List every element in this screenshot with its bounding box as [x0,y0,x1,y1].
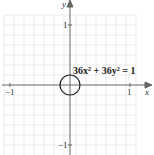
x-tick-neg1: −1 [5,88,15,97]
x-axis-label: x [145,88,149,97]
y-tick-1: 1 [63,21,68,30]
x-tick-1: 1 [127,88,132,97]
plot-area [0,0,154,155]
y-tick-neg1: −1 [58,141,68,150]
equation-annotation: 36x² + 36y² = 1 [73,65,135,76]
y-axis-label: y [62,0,66,9]
